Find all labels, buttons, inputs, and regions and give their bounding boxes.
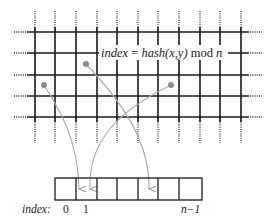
- arrow-p3-to-cell-1: [90, 85, 171, 189]
- point-p2: [83, 61, 89, 67]
- formula-label: index = hash(x,y) mod n: [101, 46, 222, 60]
- array-index-label-last: n−1: [181, 203, 200, 215]
- array-index-label-0: 0: [63, 203, 69, 215]
- array-index-row-label: index:: [22, 203, 51, 215]
- hash-grid-diagram: index = hash(x,y) mod n index: 0 1 n−1: [0, 0, 273, 223]
- hash-mapping-arrows: [44, 64, 171, 189]
- hash-table-array: [55, 178, 202, 200]
- arrow-p1-to-cell-1: [44, 85, 79, 189]
- point-p1: [41, 82, 47, 88]
- array-index-label-1: 1: [83, 203, 89, 215]
- point-p3: [168, 82, 174, 88]
- grid-lines: [27, 27, 248, 122]
